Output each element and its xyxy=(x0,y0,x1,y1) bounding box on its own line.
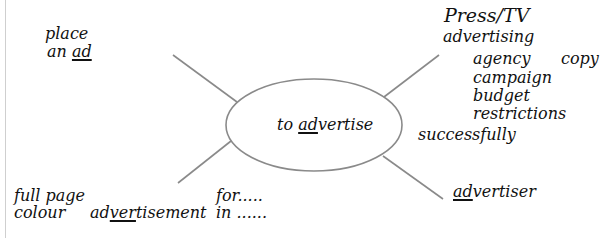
center-prefix: to xyxy=(277,115,298,134)
top-right-title: Press/TV xyxy=(444,6,529,25)
top-right-line2: advertising xyxy=(443,29,534,45)
bottom-left-prep2: in ...... xyxy=(216,205,267,221)
branch-line-bottom-right xyxy=(383,156,443,199)
noun-suffix: tisement xyxy=(136,203,207,222)
top-right-item-1: campaign xyxy=(473,70,552,86)
top-left-underlined: ad xyxy=(72,42,92,61)
top-left-line1: place xyxy=(45,26,88,42)
bottom-left-line2: colour xyxy=(14,205,65,221)
branch-line-top-right xyxy=(384,55,439,97)
center-underlined: ad xyxy=(298,115,318,134)
bottom-left-line1: full page xyxy=(14,188,85,204)
center-label: to advertise xyxy=(277,117,373,133)
noun-underlined: ver xyxy=(110,203,136,222)
top-left-line2: an ad xyxy=(47,44,92,60)
branch-line-top-left xyxy=(173,55,237,102)
noun-prefix: ad xyxy=(90,203,110,222)
bottom-right-label: advertiser xyxy=(453,184,536,200)
bottom-right-underlined: ad xyxy=(453,182,473,201)
branch-line-bottom-left xyxy=(178,141,231,183)
bottom-left-noun: advertisement xyxy=(90,205,207,221)
center-suffix: vertise xyxy=(318,115,373,134)
top-left-prefix: an xyxy=(47,42,72,61)
top-right-extra: successfully xyxy=(418,127,516,143)
bottom-right-suffix: vertiser xyxy=(473,182,536,201)
top-right-side-item: copy xyxy=(561,51,599,67)
top-right-item-2: budget xyxy=(473,88,530,104)
bottom-left-prep1: for..... xyxy=(216,188,263,204)
top-right-item-0: agency xyxy=(473,51,531,67)
top-right-item-3: restrictions xyxy=(473,106,566,122)
